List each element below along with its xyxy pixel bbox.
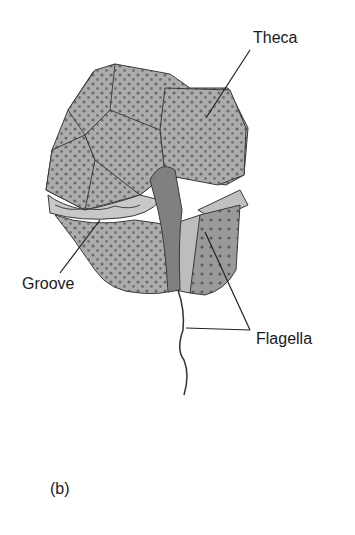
- panel-label: (b): [50, 481, 70, 497]
- dinoflagellate-illustration: [0, 0, 355, 535]
- flagella-label: Flagella: [256, 331, 312, 347]
- theca-label: Theca: [253, 30, 297, 46]
- flagellum: [178, 290, 187, 395]
- epitheca: [46, 64, 248, 210]
- groove-label: Groove: [22, 276, 74, 292]
